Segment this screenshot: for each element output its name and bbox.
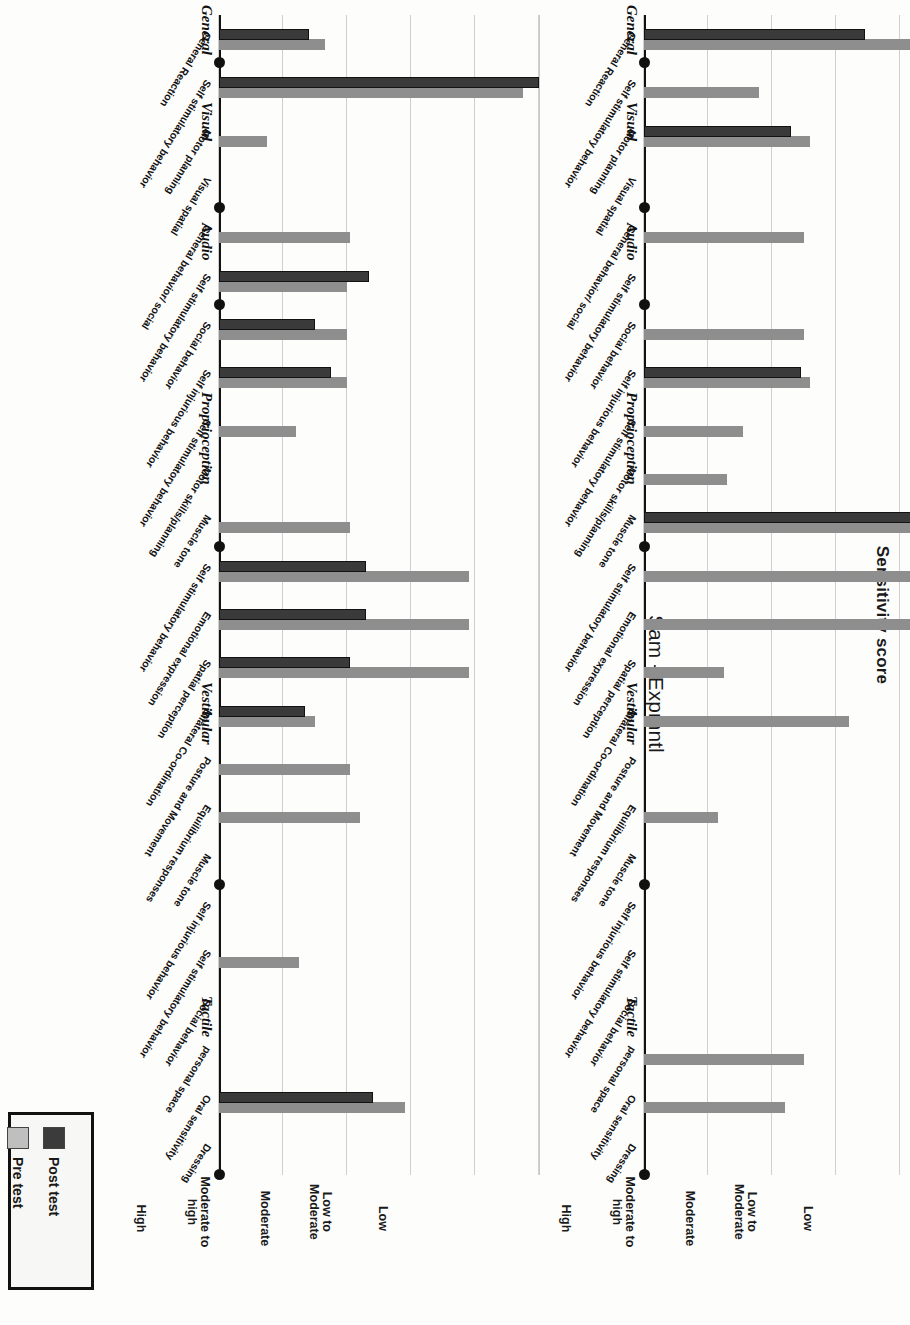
bar-pre-test bbox=[219, 813, 360, 824]
bar-pre-test bbox=[644, 523, 910, 534]
legend-label-pre-test: Pre test bbox=[10, 1157, 26, 1208]
group-marker-proprioception bbox=[214, 541, 225, 552]
bar-pre-test bbox=[644, 571, 910, 582]
scanned-figure: Sensitivity score Pre test Post test Hig… bbox=[0, 0, 910, 1325]
bar-pre-test bbox=[644, 329, 804, 340]
bar-post-test bbox=[219, 1093, 373, 1104]
bar-post-test bbox=[219, 706, 305, 717]
group-marker-tactile bbox=[214, 1169, 225, 1180]
value-axis-baseline bbox=[219, 15, 221, 1175]
band-label-low-to-moderate: Low to Moderate bbox=[732, 1167, 758, 1257]
group-marker-audio bbox=[214, 299, 225, 310]
bar-pre-test bbox=[219, 329, 347, 340]
bar-pre-test bbox=[219, 764, 350, 775]
group-label-tactile: Tactile bbox=[198, 996, 215, 1037]
bar-pre-test bbox=[644, 39, 910, 50]
figure-rotator: Sensitivity score Pre test Post test Hig… bbox=[0, 0, 910, 1325]
bar-post-test bbox=[219, 29, 309, 40]
group-marker-audio bbox=[639, 299, 650, 310]
gridline-60 bbox=[410, 15, 411, 1175]
plot-area-roshan: 020406080100DressingOral sensitivitypers… bbox=[644, 15, 910, 1175]
value-axis-baseline bbox=[644, 15, 646, 1175]
group-label-proprioception: Proprioception bbox=[623, 392, 640, 485]
gridline-0 bbox=[643, 15, 644, 1175]
group-label-audio: Audio bbox=[198, 223, 215, 261]
bar-pre-test bbox=[219, 136, 267, 147]
bar-post-test bbox=[219, 319, 315, 330]
bar-post-test bbox=[644, 126, 791, 137]
plot-area-sam: 020406080100DressingOral sensitivitypers… bbox=[219, 15, 540, 1175]
band-labels-top: HighModerate to highModerateLow to Moder… bbox=[120, 1180, 440, 1265]
group-marker-general bbox=[214, 57, 225, 68]
group-marker-vestibular bbox=[214, 879, 225, 890]
legend-item-post-test: Post test bbox=[43, 1127, 65, 1216]
group-marker-visual bbox=[639, 202, 650, 213]
gridline-40 bbox=[771, 15, 772, 1175]
bar-post-test bbox=[219, 78, 539, 89]
group-label-general: General bbox=[623, 5, 640, 55]
group-marker-vestibular bbox=[639, 879, 650, 890]
band-labels-bottom: HighModerate to highModerateLow to Moder… bbox=[545, 1180, 865, 1265]
bar-pre-test bbox=[644, 813, 718, 824]
bar-pre-test bbox=[644, 474, 727, 485]
bar-pre-test bbox=[644, 1103, 785, 1114]
bar-pre-test bbox=[644, 136, 810, 147]
group-marker-visual bbox=[214, 202, 225, 213]
bar-pre-test bbox=[219, 1103, 405, 1114]
band-label-moderate: Moderate bbox=[682, 1173, 695, 1263]
bar-pre-test bbox=[219, 233, 350, 244]
group-label-proprioception: Proprioception bbox=[198, 392, 215, 485]
bar-pre-test bbox=[644, 88, 759, 99]
gridline-0 bbox=[218, 15, 219, 1175]
band-label-low-to-moderate: Low to Moderate bbox=[307, 1167, 333, 1257]
bar-post-test bbox=[219, 271, 369, 282]
bar-pre-test bbox=[219, 571, 469, 582]
bar-post-test bbox=[219, 658, 350, 669]
band-label-high: High bbox=[133, 1173, 146, 1263]
band-label-moderate: Moderate bbox=[257, 1173, 270, 1263]
bar-pre-test bbox=[644, 426, 743, 437]
gridline-100 bbox=[538, 15, 539, 1175]
bar-post-test bbox=[644, 513, 910, 524]
group-label-general: General bbox=[198, 5, 215, 55]
gridline-20 bbox=[707, 15, 708, 1175]
group-marker-proprioception bbox=[639, 541, 650, 552]
bar-pre-test bbox=[219, 88, 523, 99]
bar-post-test bbox=[644, 368, 801, 379]
bar-pre-test bbox=[644, 378, 810, 389]
bar-pre-test bbox=[644, 716, 849, 727]
gridline-20 bbox=[282, 15, 283, 1175]
bar-post-test bbox=[219, 609, 366, 620]
gridline-80 bbox=[474, 15, 475, 1175]
group-label-visual: Visual bbox=[623, 102, 640, 141]
bar-pre-test bbox=[219, 668, 469, 679]
band-label-low: Low bbox=[375, 1173, 388, 1263]
gridline-80 bbox=[899, 15, 900, 1175]
group-label-vestibular: Vestibular bbox=[198, 682, 215, 745]
bar-pre-test bbox=[644, 619, 910, 630]
group-label-vestibular: Vestibular bbox=[623, 682, 640, 745]
band-label-high: High bbox=[558, 1173, 571, 1263]
gridline-40 bbox=[346, 15, 347, 1175]
band-label-low: Low bbox=[800, 1173, 813, 1263]
legend-item-pre-test: Pre test bbox=[7, 1127, 29, 1208]
legend-label-post-test: Post test bbox=[46, 1157, 62, 1216]
bar-pre-test bbox=[219, 281, 347, 292]
bar-pre-test bbox=[219, 716, 315, 727]
chart-sam-experimental: Sam - Expmntl 020406080100DressingOral s… bbox=[120, 5, 540, 1175]
group-label-visual: Visual bbox=[198, 102, 215, 141]
group-label-tactile: Tactile bbox=[623, 996, 640, 1037]
bar-pre-test bbox=[644, 233, 804, 244]
bar-post-test bbox=[219, 561, 366, 572]
bar-pre-test bbox=[219, 39, 325, 50]
bar-pre-test bbox=[219, 426, 296, 437]
legend-swatch-post-test bbox=[43, 1127, 65, 1149]
legend-swatch-pre-test bbox=[7, 1127, 29, 1149]
chart-roshan-control: Roshan - Control 020406080100DressingOra… bbox=[545, 5, 910, 1175]
bar-pre-test bbox=[219, 619, 469, 630]
bar-pre-test bbox=[219, 958, 299, 969]
group-marker-tactile bbox=[639, 1169, 650, 1180]
group-marker-general bbox=[639, 57, 650, 68]
group-label-audio: Audio bbox=[623, 223, 640, 261]
bar-pre-test bbox=[644, 668, 724, 679]
